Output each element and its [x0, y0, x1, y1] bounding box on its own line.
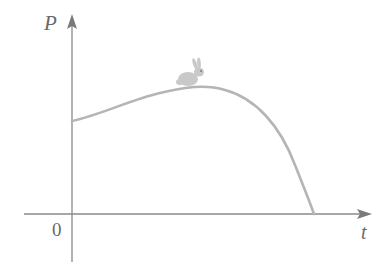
y-axis-label: P — [44, 11, 57, 36]
x-axis-label: t — [361, 221, 367, 244]
population-curve — [72, 87, 314, 214]
origin-label: 0 — [52, 219, 62, 241]
rabbit-icon — [176, 57, 204, 86]
